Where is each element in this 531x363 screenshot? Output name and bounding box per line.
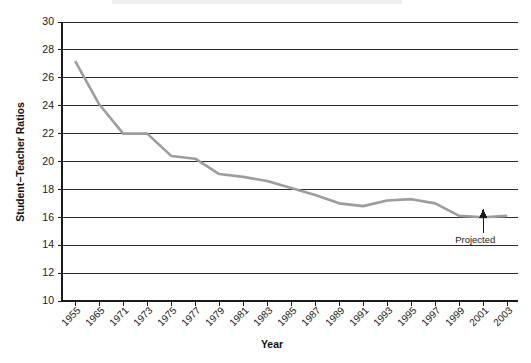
y-axis-tick-label: 20 xyxy=(42,155,54,167)
x-axis-tick-label: 1995 xyxy=(395,304,419,328)
x-axis-tick-label: 2001 xyxy=(467,304,491,328)
x-axis-tick-label: 1985 xyxy=(275,304,299,328)
x-axis-tick-label: 1973 xyxy=(131,304,155,328)
x-axis-tick-label: 1979 xyxy=(203,304,227,328)
header-strip xyxy=(112,0,402,4)
y-axis-tick-label: 26 xyxy=(42,71,54,83)
y-axis-tick-label: 10 xyxy=(42,294,54,306)
y-axis-tick-label: 16 xyxy=(42,211,54,223)
x-axis-tick-label: 1965 xyxy=(83,304,107,328)
y-axis-tick-label: 22 xyxy=(42,127,54,139)
x-axis-tick-label: 1971 xyxy=(107,304,131,328)
x-axis-tick-label: 1991 xyxy=(347,304,371,328)
x-axis-tick-label: 1993 xyxy=(371,304,395,328)
x-axis-tick-labels-group: 1955196519711973197519771979198119831985… xyxy=(59,304,515,328)
x-axis-tick-label: 1955 xyxy=(59,304,83,328)
x-axis-tick-label: 1975 xyxy=(155,304,179,328)
projected-label: Projected xyxy=(455,234,495,245)
y-axis-tick-label: 24 xyxy=(42,99,54,111)
projected-arrowhead-icon xyxy=(480,210,486,218)
y-axis-tick-labels-group: 1012141618202224262830 xyxy=(42,15,54,306)
y-axis-tick-label: 14 xyxy=(42,238,54,250)
x-axis-tick-label: 1983 xyxy=(251,304,275,328)
y-axis-tick-label: 30 xyxy=(42,15,54,27)
x-axis-tick-label: 1981 xyxy=(227,304,251,328)
y-axis-tick-label: 12 xyxy=(42,266,54,278)
chart-container: 1012141618202224262830 19551965197119731… xyxy=(0,0,531,363)
y-axis-tick-label: 18 xyxy=(42,183,54,195)
student-teacher-ratio-line-chart: 1012141618202224262830 19551965197119731… xyxy=(0,0,531,363)
x-axis-tick-label: 2003 xyxy=(491,304,515,328)
y-axis-tick-label: 28 xyxy=(42,43,54,55)
x-axis-tick-label: 1987 xyxy=(299,304,323,328)
y-axis-title: Student−Teacher Ratios xyxy=(14,102,26,222)
x-axis-title: Year xyxy=(261,338,283,350)
student-teacher-ratio-series-line xyxy=(75,61,507,217)
gridlines-group xyxy=(62,22,518,273)
x-axis-tick-label: 1997 xyxy=(419,304,443,328)
x-axis-tick-label: 1989 xyxy=(323,304,347,328)
x-axis-tick-label: 1999 xyxy=(443,304,467,328)
x-axis-tick-label: 1977 xyxy=(179,304,203,328)
